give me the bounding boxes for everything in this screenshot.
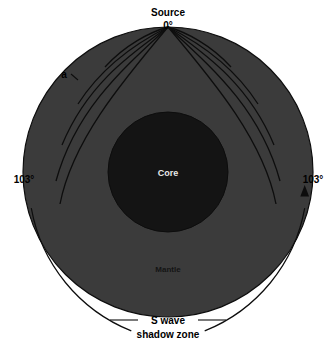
s-wave-shadow-zone-diagram: Source 0° a Core Mantle 103° 103° S wave… (0, 0, 336, 349)
angle-label-left: 103° (14, 174, 35, 185)
shadow-zone-label-line1: S wave (151, 315, 185, 326)
source-label: Source (151, 7, 185, 18)
mantle-label: Mantle (155, 265, 181, 274)
core-label: Core (158, 168, 179, 178)
source-angle-label: 0° (163, 20, 173, 31)
ray-label-a: a (61, 69, 67, 80)
shadow-zone-label-line2: shadow zone (137, 329, 200, 340)
angle-label-right: 103° (303, 174, 324, 185)
